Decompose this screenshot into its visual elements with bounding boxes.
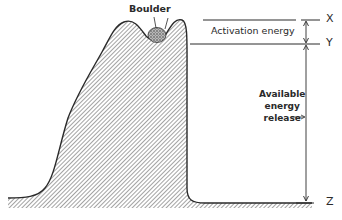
level-y-label: Y: [326, 36, 333, 49]
activation-energy-label: Activation energy: [211, 25, 295, 36]
available-energy-label-line-1: Available: [259, 88, 305, 100]
level-x-label: X: [326, 12, 334, 25]
boulder-label: Boulder: [129, 3, 171, 14]
boulder: [148, 28, 166, 43]
level-z-label: Z: [326, 195, 334, 208]
available-energy-label-line-3: release: [259, 112, 305, 124]
available-energy-label-line-2: energy: [259, 100, 305, 112]
available-energy-label: Available energy release: [259, 88, 305, 124]
boulder-leader-left: [154, 17, 156, 28]
boulder-leader-right: [165, 18, 168, 29]
